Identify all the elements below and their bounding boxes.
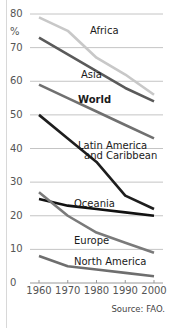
y-tick-label: 40 <box>10 143 23 154</box>
y-tick-label: 20 <box>10 210 23 221</box>
y-axis-unit: % <box>10 26 20 37</box>
label-africa: Africa <box>90 25 119 36</box>
x-tick-label: 1970 <box>55 285 80 296</box>
y-tick-label: 30 <box>10 176 23 187</box>
y-axis-ticks: 01020304050607080 <box>10 8 23 288</box>
source-note: Source: FAO. <box>111 304 165 314</box>
x-tick-label: 2000 <box>141 285 166 296</box>
x-tick-label: 1960 <box>26 285 51 296</box>
line-chart: 01020304050607080 % 19601970198019902000… <box>0 0 173 328</box>
y-tick-label: 60 <box>10 75 23 86</box>
label-world: World <box>78 94 111 105</box>
y-tick-label: 0 <box>10 277 16 288</box>
x-axis: 19601970198019902000 <box>26 280 166 296</box>
label-latin-america-line2: and Caribbean <box>84 150 157 161</box>
y-tick-label: 10 <box>10 243 23 254</box>
x-tick-label: 1990 <box>113 285 138 296</box>
label-europe: Europe <box>74 235 109 246</box>
label-north-america: North America <box>74 256 146 267</box>
label-oceania: Oceania <box>74 198 115 209</box>
x-tick-label: 1980 <box>84 285 109 296</box>
y-tick-label: 80 <box>10 8 23 19</box>
label-asia: Asia <box>81 69 102 80</box>
y-tick-label: 50 <box>10 109 23 120</box>
y-tick-label: 70 <box>10 42 23 53</box>
